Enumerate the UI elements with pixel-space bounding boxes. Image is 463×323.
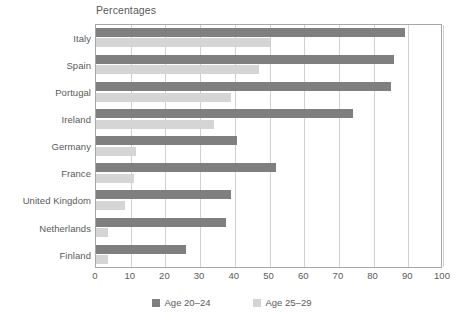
bar	[96, 228, 108, 237]
chart-title: Percentages	[96, 4, 156, 16]
bar	[96, 218, 226, 227]
category-label: Portugal	[0, 87, 91, 98]
legend-item[interactable]: Age 20–24	[152, 297, 211, 308]
legend-swatch-icon	[253, 299, 261, 307]
legend-label: Age 25–29	[266, 297, 312, 308]
bar	[96, 109, 353, 118]
x-tick-label: 100	[434, 270, 450, 281]
legend-swatch-icon	[152, 299, 160, 307]
x-tick-label: 0	[92, 270, 97, 281]
category-label: Netherlands	[0, 223, 91, 234]
x-axis-ticks: 0102030405060708090100	[95, 270, 442, 286]
category-label: Ireland	[0, 114, 91, 125]
plot-area	[95, 24, 442, 268]
x-tick-label: 10	[124, 270, 135, 281]
legend-item[interactable]: Age 25–29	[253, 297, 312, 308]
category-label: Finland	[0, 250, 91, 261]
bar	[96, 65, 259, 74]
x-tick-label: 80	[367, 270, 378, 281]
bar	[96, 201, 125, 210]
bar	[96, 190, 231, 199]
bar	[96, 93, 231, 102]
bar	[96, 163, 276, 172]
x-tick-label: 60	[298, 270, 309, 281]
bar	[96, 136, 237, 145]
bar	[96, 28, 405, 37]
category-label: Italy	[0, 33, 91, 44]
legend-label: Age 20–24	[165, 297, 211, 308]
bar	[96, 174, 134, 183]
chart-legend: Age 20–24Age 25–29	[0, 297, 463, 308]
x-tick-label: 70	[333, 270, 344, 281]
x-tick-label: 90	[402, 270, 413, 281]
bar	[96, 38, 270, 47]
bar	[96, 120, 214, 129]
x-tick-label: 20	[159, 270, 170, 281]
bar	[96, 55, 394, 64]
gridline	[443, 25, 444, 267]
category-label: France	[0, 168, 91, 179]
x-tick-label: 30	[194, 270, 205, 281]
category-label: United Kingdom	[0, 195, 91, 206]
bar	[96, 82, 391, 91]
x-tick-label: 50	[263, 270, 274, 281]
bar	[96, 255, 108, 264]
category-label: Spain	[0, 60, 91, 71]
bar-chart: Percentages ItalySpainPortugalIrelandGer…	[0, 0, 463, 323]
bars-layer	[96, 25, 441, 267]
category-axis-labels: ItalySpainPortugalIrelandGermanyFranceUn…	[0, 24, 91, 268]
bar	[96, 147, 136, 156]
category-label: Germany	[0, 141, 91, 152]
bar	[96, 245, 186, 254]
x-tick-label: 40	[229, 270, 240, 281]
